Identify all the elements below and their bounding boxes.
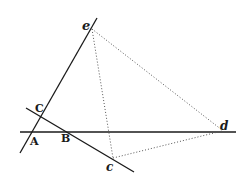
label-d: d: [220, 119, 229, 133]
diagonal-line-C-B-c: [26, 108, 134, 172]
label-c: c: [106, 160, 114, 174]
line-through-e-and-C: [20, 18, 97, 153]
diagram-svg: eCABdc: [0, 0, 250, 188]
label-C: C: [35, 102, 44, 115]
dotted-c-to-d: [113, 131, 222, 158]
label-e: e: [82, 18, 90, 33]
label-A: A: [29, 135, 39, 148]
dotted-e-to-c: [92, 29, 113, 158]
dotted-e-to-d: [92, 29, 222, 130]
label-B: B: [61, 132, 70, 145]
geometry-diagram: eCABdc: [0, 0, 250, 188]
